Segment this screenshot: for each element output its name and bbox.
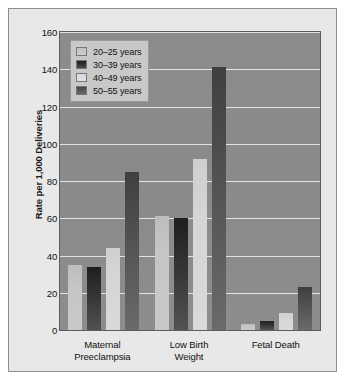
bar-2-1	[260, 321, 274, 330]
x-axis-category-labels: MaternalPreeclampsiaLow BirthWeightFetal…	[59, 335, 321, 367]
chart-legend: 20–25 years30–39 years40–49 years50–55 y…	[70, 40, 149, 102]
y-axis-tick-0: 0	[23, 325, 57, 336]
x-axis-label-0-line-0: Maternal	[59, 339, 146, 351]
y-axis-tick-40: 40	[23, 250, 57, 261]
bar-2-0	[241, 324, 255, 330]
bar-0-2	[106, 248, 120, 330]
legend-item-0: 20–25 years	[76, 45, 141, 58]
x-axis-label-1: Low BirthWeight	[146, 339, 233, 362]
bar-2-2	[279, 313, 293, 330]
legend-swatch-icon-1	[76, 60, 87, 69]
bar-1-1	[174, 218, 188, 330]
bar-0-0	[68, 265, 82, 330]
legend-label-1: 30–39 years	[93, 60, 141, 70]
legend-item-1: 30–39 years	[76, 58, 141, 71]
bar-0-1	[87, 267, 101, 330]
y-axis-tick-60: 60	[23, 213, 57, 224]
x-axis-label-1-line-1: Weight	[146, 351, 233, 363]
bar-1-0	[155, 216, 169, 330]
x-axis-label-2: Fetal Death	[232, 339, 319, 351]
plot-area: 20–25 years30–39 years40–49 years50–55 y…	[59, 31, 321, 331]
y-axis-tick-160: 160	[23, 27, 57, 38]
x-axis-label-2-line-0: Fetal Death	[232, 339, 319, 351]
y-axis-tick-100: 100	[23, 138, 57, 149]
y-axis-tick-labels: 160140120100806040200	[23, 31, 57, 331]
x-axis-label-0-line-1: Preeclampsia	[59, 351, 146, 363]
legend-item-2: 40–49 years	[76, 71, 141, 84]
legend-item-3: 50–55 years	[76, 84, 141, 97]
legend-swatch-icon-2	[76, 73, 87, 82]
bar-1-2	[193, 159, 207, 330]
legend-label-3: 50–55 years	[93, 86, 141, 96]
x-axis-label-0: MaternalPreeclampsia	[59, 339, 146, 362]
x-axis-label-1-line-0: Low Birth	[146, 339, 233, 351]
y-axis-tick-120: 120	[23, 101, 57, 112]
legend-swatch-icon-0	[76, 47, 87, 56]
legend-label-0: 20–25 years	[93, 47, 141, 57]
bar-0-3	[125, 172, 139, 330]
legend-label-2: 40–49 years	[93, 73, 141, 83]
legend-swatch-icon-3	[76, 86, 87, 95]
bar-1-3	[212, 67, 226, 330]
figure-frame: Rate per 1,000 Deliveries 16014012010080…	[8, 8, 337, 372]
y-axis-tick-80: 80	[23, 176, 57, 187]
y-axis-tick-140: 140	[23, 64, 57, 75]
y-axis-tick-20: 20	[23, 287, 57, 298]
bar-2-3	[298, 287, 312, 330]
